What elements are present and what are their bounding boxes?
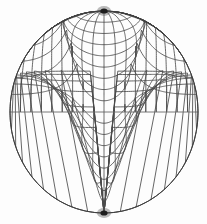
map-projection-figure: Globular map projection graticule Hemisp… <box>0 0 207 224</box>
south-pole-marker <box>100 210 107 215</box>
graticule-canvas <box>0 0 207 224</box>
north-pole-marker <box>100 8 107 13</box>
